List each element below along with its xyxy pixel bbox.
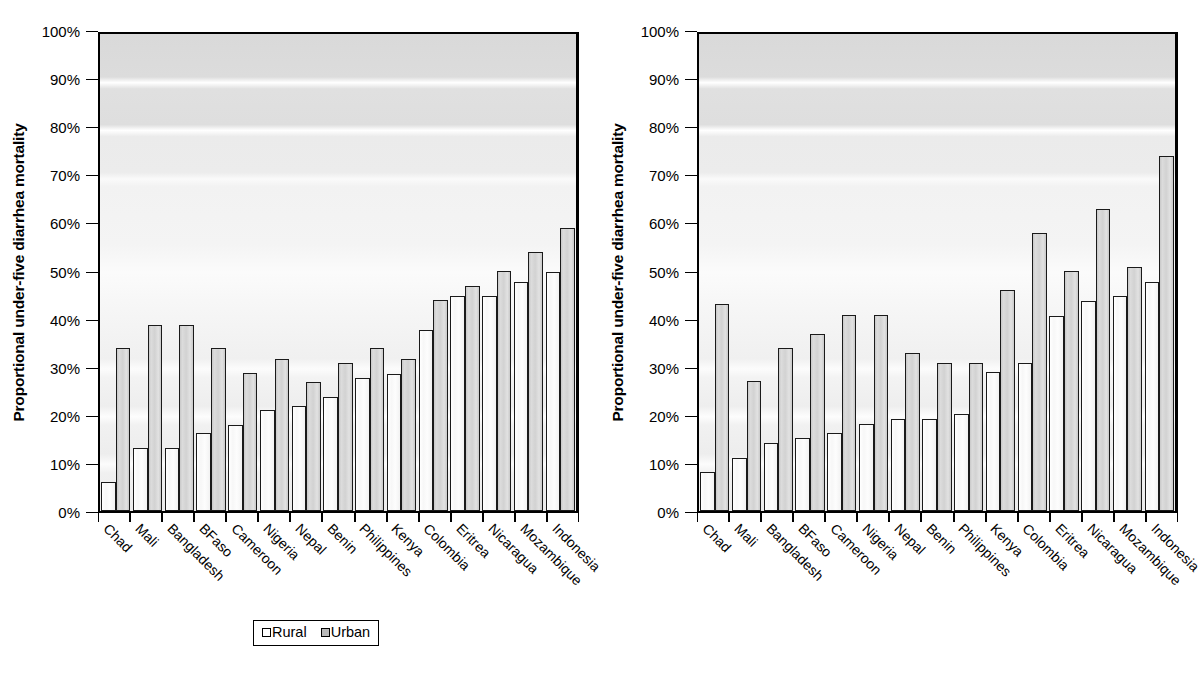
y-axis-tick: [685, 272, 697, 273]
bar-group: [1080, 34, 1112, 511]
y-axis-tick-label-wrap: 40%: [599, 313, 679, 328]
bar: [165, 448, 180, 511]
bar-group: [417, 34, 449, 511]
bar: [1032, 233, 1047, 511]
bar: [401, 359, 416, 511]
bar: [101, 482, 116, 511]
bar: [747, 381, 762, 511]
chart-panel-education: Proportional under-five diarrhea mortali…: [599, 0, 1198, 673]
bar-group: [762, 34, 794, 511]
bar: [1113, 296, 1128, 511]
y-axis-tick-label: 0%: [14, 505, 80, 520]
plot-area-left: [98, 32, 579, 513]
bar: [732, 458, 747, 511]
y-axis-tick: [685, 175, 697, 176]
bar: [810, 334, 825, 511]
bar-group: [699, 34, 731, 511]
y-axis-tick-label-wrap: 100%: [599, 24, 679, 39]
bar: [764, 443, 779, 511]
bar: [546, 272, 561, 511]
bar-group-container-right: [699, 34, 1175, 511]
y-axis-tick-label-wrap: 60%: [0, 216, 80, 231]
bar: [715, 304, 730, 511]
bar-group: [449, 34, 481, 511]
bar-group: [132, 34, 164, 511]
bar: [370, 348, 385, 511]
y-axis-tick: [685, 127, 697, 128]
bar: [827, 433, 842, 511]
y-axis-tick: [685, 320, 697, 321]
plot-area-right: [697, 32, 1178, 513]
bar: [482, 296, 497, 511]
y-axis-tick-label: 60%: [613, 216, 679, 231]
y-axis-tick-label-wrap: 20%: [599, 409, 679, 424]
bar: [1018, 363, 1033, 511]
bar-group: [322, 34, 354, 511]
bar-group: [889, 34, 921, 511]
y-axis-tick-label: 90%: [613, 72, 679, 87]
bar: [954, 414, 969, 511]
bar: [1049, 316, 1064, 511]
y-axis-tick: [86, 31, 98, 32]
x-axis-tick-label: Benin: [325, 521, 360, 556]
white-square-swatch-icon: [262, 628, 271, 637]
bar: [355, 378, 370, 511]
y-axis-tick: [685, 79, 697, 80]
bar: [514, 282, 529, 511]
bar-group: [731, 34, 763, 511]
y-axis-tick: [685, 512, 697, 513]
y-axis-tick: [685, 464, 697, 465]
bar: [387, 374, 402, 511]
bar-group: [259, 34, 291, 511]
y-axis-tick-label: 30%: [613, 361, 679, 376]
bar: [937, 363, 952, 511]
bar: [1081, 301, 1096, 511]
bar: [292, 406, 307, 511]
chart-panel-rural-urban: Proportional under-five diarrhea mortali…: [0, 0, 599, 673]
y-axis-tick: [86, 272, 98, 273]
y-axis-tick-label-wrap: 10%: [0, 457, 80, 472]
y-axis-tick-label-wrap: 30%: [0, 361, 80, 376]
bar-group: [481, 34, 513, 511]
bar: [969, 363, 984, 511]
bar: [306, 382, 321, 511]
y-axis-tick: [86, 416, 98, 417]
bar: [874, 315, 889, 511]
bar: [842, 315, 857, 511]
x-axis-tick-label: Benin: [924, 521, 959, 556]
y-axis-tick: [86, 79, 98, 80]
bar: [338, 363, 353, 511]
bar: [1145, 282, 1160, 511]
bar-group: [1048, 34, 1080, 511]
y-axis-tick: [685, 223, 697, 224]
x-axis-tick-label: Chad: [700, 521, 734, 555]
bar-group: [826, 34, 858, 511]
bar-group-container-left: [100, 34, 576, 511]
bar: [891, 419, 906, 511]
y-axis-tick-label-wrap: 30%: [599, 361, 679, 376]
y-axis-tick: [685, 416, 697, 417]
y-axis-tick-label: 10%: [613, 457, 679, 472]
y-axis-tick-label-wrap: 10%: [599, 457, 679, 472]
y-axis-tick-label-wrap: 90%: [599, 72, 679, 87]
y-axis-tick-label-wrap: 0%: [599, 505, 679, 520]
y-axis-tick-label-wrap: 50%: [0, 265, 80, 280]
x-axis-labels-right: ChadMaliBangladeshBFasoCameroonNigeriaNe…: [697, 521, 1178, 621]
bar: [133, 448, 148, 511]
bar-group: [1112, 34, 1144, 511]
y-axis-tick-label: 40%: [14, 313, 80, 328]
bar: [560, 228, 575, 511]
y-axis-tick-label: 10%: [14, 457, 80, 472]
bar: [1096, 209, 1111, 511]
bar: [859, 424, 874, 511]
bar-group: [921, 34, 953, 511]
bar: [700, 472, 715, 511]
bar: [986, 372, 1001, 511]
y-axis-tick-label: 30%: [14, 361, 80, 376]
y-axis-tick-label: 20%: [613, 409, 679, 424]
bar: [228, 425, 243, 511]
y-axis-tick-label: 60%: [14, 216, 80, 231]
bar: [260, 410, 275, 511]
legend-entry-urban: Urban: [321, 624, 371, 641]
bar: [1064, 271, 1079, 511]
